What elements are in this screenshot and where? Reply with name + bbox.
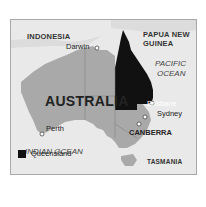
label-darwin: Darwin (66, 42, 89, 51)
label-pacific-1: PACIFIC (155, 59, 186, 68)
sydney-dot (143, 115, 147, 119)
tasmania-landmass (121, 154, 137, 166)
legend-label-queensland: Queensland (31, 149, 71, 158)
map-title-australia: AUSTRALIA (45, 93, 129, 109)
label-brisbane: Brisbane (147, 99, 177, 108)
canberra-dot (137, 122, 141, 126)
label-png-1: PAPUA NEW (143, 30, 190, 39)
perth-dot (40, 132, 44, 136)
map-legend: Queensland (18, 149, 71, 158)
legend-swatch-queensland (18, 150, 26, 158)
label-perth: Perth (46, 124, 64, 133)
label-indonesia: INDONESIA (27, 32, 70, 41)
label-pacific-2: OCEAN (157, 69, 185, 78)
label-sydney: Sydney (157, 109, 182, 118)
label-canberra: CANBERRA (129, 128, 172, 137)
darwin-dot (95, 46, 99, 50)
label-tasmania: TASMANIA (147, 158, 182, 165)
label-png-2: GUINEA (143, 39, 173, 48)
